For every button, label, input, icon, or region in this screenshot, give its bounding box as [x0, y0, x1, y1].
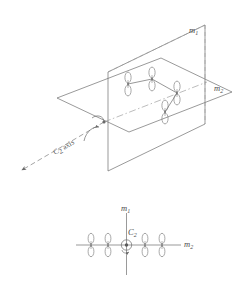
label-m2-top: m2 [214, 83, 223, 94]
p-orbital-1 [125, 72, 131, 96]
p-orbital-3 [174, 81, 180, 105]
label-c2-center: C2 [128, 227, 137, 238]
bottom-projection-panel: m1 m2 C2 [76, 203, 193, 275]
label-m1-top: m1 [189, 25, 198, 36]
label-c2-axis: C2 axis [52, 138, 77, 159]
vertical-mirror-plane-m1 [108, 25, 205, 171]
horizontal-mirror-plane-m2 [57, 58, 232, 132]
symmetry-figure: m1 m2 C2 axis [0, 0, 251, 287]
label-m2-bottom: m2 [184, 239, 193, 250]
label-m1-bottom: m1 [121, 203, 130, 214]
figure-canvas: m1 m2 C2 axis [0, 0, 251, 287]
plane-intersection-line [104, 82, 207, 122]
svg-text:C2 axis: C2 axis [52, 138, 77, 159]
p-orbital-4 [162, 100, 168, 124]
top-perspective-panel: m1 m2 C2 axis [22, 25, 232, 171]
p-orbital-2 [149, 67, 155, 91]
